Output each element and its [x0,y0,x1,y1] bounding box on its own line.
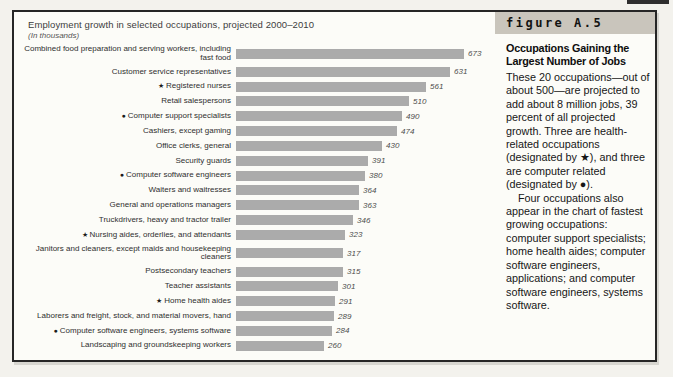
chart-row: Retail salespersons 510 [18,96,495,106]
bar-label-text: Waiters and waitresses [149,185,231,194]
bar-value-label: 380 [369,171,382,180]
bar-value-label: 323 [349,230,362,239]
bar-label-text: Nursing aides, orderlies, and attendants [90,230,231,239]
bar-label-text: General and operations managers [110,200,231,209]
chart-row: Cashiers, except gaming 474 [18,126,495,136]
bar-label-text: Security guards [175,156,231,165]
bar-value-label: 289 [338,312,351,321]
bar [236,96,409,106]
bar-label: ★Home health aides [18,297,236,306]
bar [236,326,332,336]
chart-row: ★Registered nurses 561 [18,82,495,92]
bar-label-text: Office clerks, general [156,141,231,150]
bar [236,230,345,240]
bar [236,248,343,258]
bar-label-text: Truckdrivers, heavy and tractor trailer [99,215,231,224]
bar-label-text: Janitors and cleaners, except maids and … [36,244,231,262]
computer-dot-icon: ● [54,327,58,334]
bar [236,281,338,291]
bar [236,171,365,181]
bar-label: Office clerks, general [18,142,236,151]
bar-label-text: Computer support specialists [128,111,231,120]
sidebar-paragraph-1: These 20 occupations—out of about 500—ar… [506,71,651,192]
chart-row: Customer service representatives 631 [18,67,495,77]
bar-label-text: Home health aides [164,296,231,305]
bar [236,267,343,277]
bar-value-label: 391 [372,156,385,165]
bar [236,311,334,321]
bar [236,141,382,151]
bar-label: Customer service representatives [18,68,236,77]
bar-value-label: 284 [336,326,349,335]
chart-row: Truckdrivers, heavy and tractor trailer … [18,215,495,225]
bar-label: Janitors and cleaners, except maids and … [18,245,236,262]
bar [236,49,464,59]
bar-value-label: 291 [339,297,352,306]
bar-value-label: 474 [401,127,414,136]
bar-value-label: 317 [347,249,360,258]
chart-rows: Combined food preparation and serving wo… [18,45,495,351]
bar-label-text: Postsecondary teachers [145,266,231,275]
bar [236,82,426,92]
chart-row: ●Computer support specialists 490 [18,111,495,121]
chart-row: General and operations managers 363 [18,200,495,210]
bar-label: ★Nursing aides, orderlies, and attendant… [18,231,236,240]
bar-label: Truckdrivers, heavy and tractor trailer [18,216,236,225]
figure-sidebar: figure A.5 Occupations Gaining the Large… [495,12,655,360]
bar-value-label: 346 [357,216,370,225]
bar-label: Landscaping and groundskeeping workers [18,341,236,350]
bar-label: General and operations managers [18,201,236,210]
chart-row: Postsecondary teachers 315 [18,267,495,277]
textbook-figure-page: Employment growth in selected occupation… [0,0,673,377]
page-corner-tab [627,0,669,4]
chart-row: Teacher assistants 301 [18,281,495,291]
figure-header: figure A.5 [495,12,655,34]
figure-number-label: figure A.5 [506,16,603,30]
chart-row: Combined food preparation and serving wo… [18,45,495,62]
bar-value-label: 430 [386,141,399,150]
bar-label: ●Computer software engineers [18,171,236,180]
chart-row: ●Computer software engineers, systems so… [18,326,495,336]
bar-label-text: Combined food preparation and serving wo… [24,44,231,62]
bar-label-text: Computer software engineers [126,170,231,179]
bar-label: Retail salespersons [18,97,236,106]
bar [236,67,450,77]
chart-row: Waiters and waitresses 364 [18,185,495,195]
computer-dot-icon: ● [120,171,124,178]
chart-row: Security guards 391 [18,156,495,166]
bar-label: Postsecondary teachers [18,267,236,276]
bar-label-text: Registered nurses [166,81,231,90]
bar-label: ●Computer software engineers, systems so… [18,327,236,336]
chart-row: ★Nursing aides, orderlies, and attendant… [18,230,495,240]
chart-row: Office clerks, general 430 [18,141,495,151]
sidebar-heading: Occupations Gaining the Largest Number o… [506,42,650,67]
bar [236,200,359,210]
bar-label-text: Retail salespersons [161,96,231,105]
health-star-icon: ★ [82,231,88,238]
bar-label: Laborers and freight, stock, and materia… [18,312,236,321]
bar [236,111,402,121]
bar [236,296,335,306]
bar [236,341,324,351]
bar-chart: Employment growth in selected occupation… [14,12,495,360]
bar-value-label: 631 [454,67,467,76]
bar-label-text: Cashiers, except gaming [143,126,231,135]
bar-label-text: Laborers and freight, stock, and materia… [37,311,231,320]
bar [236,126,397,136]
bar-label: ●Computer support specialists [18,112,236,121]
chart-units-note: (In thousands) [28,31,79,40]
chart-title: Employment growth in selected occupation… [28,19,314,30]
bar-value-label: 673 [468,49,481,58]
bar-label: Teacher assistants [18,282,236,291]
computer-dot-icon: ● [122,112,126,119]
bar [236,215,353,225]
bar-label: Waiters and waitresses [18,186,236,195]
figure-box: Employment growth in selected occupation… [12,10,657,362]
health-star-icon: ★ [158,82,164,89]
bar-value-label: 260 [328,341,341,350]
bar-label: Combined food preparation and serving wo… [18,45,236,62]
bar [236,185,359,195]
bar-label: ★Registered nurses [18,82,236,91]
bar-label: Security guards [18,157,236,166]
bar-value-label: 510 [413,97,426,106]
